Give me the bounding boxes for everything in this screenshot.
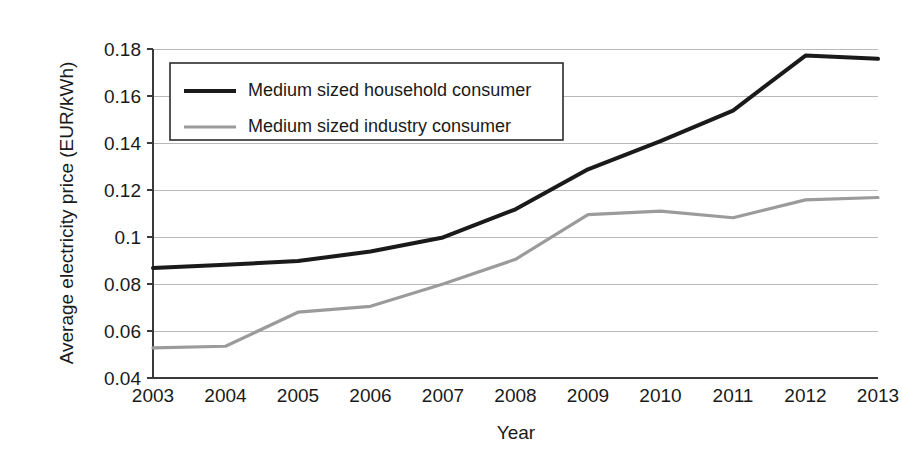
x-tick-label: 2012 [784,385,826,406]
y-tick-label: 0.08 [104,274,141,295]
y-tick-label: 0.18 [104,39,141,60]
y-axis-tick-labels: 0.040.060.080.10.120.140.160.18 [104,39,153,389]
x-tick-label: 2003 [132,385,174,406]
x-tick-label: 2004 [204,385,247,406]
x-tick-label: 2010 [639,385,681,406]
y-tick-label: 0.06 [104,321,141,342]
x-tick-label: 2009 [567,385,609,406]
x-tick-label: 2007 [422,385,464,406]
y-tick-label: 0.14 [104,133,141,154]
y-tick-label: 0.1 [115,227,141,248]
legend-label-0: Medium sized household consumer [248,80,531,100]
y-tick-label: 0.16 [104,86,141,107]
line-chart: 0.040.060.080.10.120.140.160.18 20032004… [40,16,902,451]
x-tick-label: 2005 [277,385,319,406]
chart-figure: 0.040.060.080.10.120.140.160.18 20032004… [40,16,902,451]
legend-label-1: Medium sized industry consumer [248,116,511,136]
x-axis-title: Year [497,422,536,443]
x-tick-label: 2006 [349,385,391,406]
legend: Medium sized household consumerMedium si… [170,63,563,140]
series-line-1 [153,198,878,348]
y-tick-label: 0.12 [104,180,141,201]
x-tick-label: 2011 [713,385,754,406]
x-axis-tick-labels: 2003200420052006200720082009201020112012… [132,385,899,406]
x-tick-label: 2008 [494,385,536,406]
y-axis-title: Average electricity price (EUR/kWh) [56,62,77,365]
x-tick-label: 2013 [857,385,899,406]
